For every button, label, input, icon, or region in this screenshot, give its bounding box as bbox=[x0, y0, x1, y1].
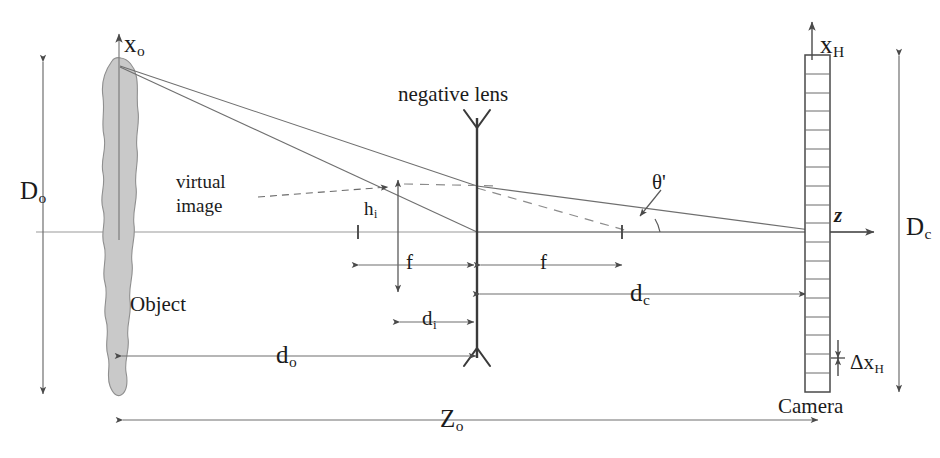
label-d-o: do bbox=[276, 342, 297, 370]
camera-sensor-array bbox=[805, 55, 830, 392]
label-virtual-image-line2: image bbox=[176, 196, 222, 215]
label-virtual-image-line1: virtual bbox=[176, 172, 226, 191]
label-z-axis: z bbox=[834, 205, 842, 226]
theta-prime-angle bbox=[640, 190, 661, 232]
label-object: Object bbox=[130, 294, 186, 315]
refracted-rays bbox=[477, 186, 818, 232]
label-d-c: dc bbox=[630, 280, 650, 308]
label-x-o: xo bbox=[124, 31, 145, 59]
label-delta-x-H: ΔxH bbox=[850, 352, 884, 375]
negative-lens bbox=[464, 110, 490, 366]
label-camera: Camera bbox=[778, 396, 843, 417]
label-theta-prime: θ' bbox=[652, 172, 666, 193]
label-h-i: hi bbox=[364, 199, 377, 221]
label-f-right: f bbox=[540, 252, 547, 273]
label-f-left: f bbox=[406, 252, 413, 273]
label-Z-o: Zo bbox=[440, 406, 464, 434]
label-D-o: Do bbox=[20, 178, 46, 206]
label-D-c: Dc bbox=[906, 214, 931, 242]
label-x-H: xH bbox=[820, 32, 844, 60]
optical-ray-diagram-svg bbox=[0, 0, 940, 458]
label-negative-lens: negative lens bbox=[398, 84, 508, 105]
figure-canvas: xo Do Object negative lens virtual image… bbox=[0, 0, 940, 458]
object-shape bbox=[102, 58, 139, 396]
delta-x-H-dimension bbox=[831, 340, 845, 376]
virtual-image-pointer bbox=[258, 187, 388, 197]
label-d-i: di bbox=[422, 308, 437, 331]
